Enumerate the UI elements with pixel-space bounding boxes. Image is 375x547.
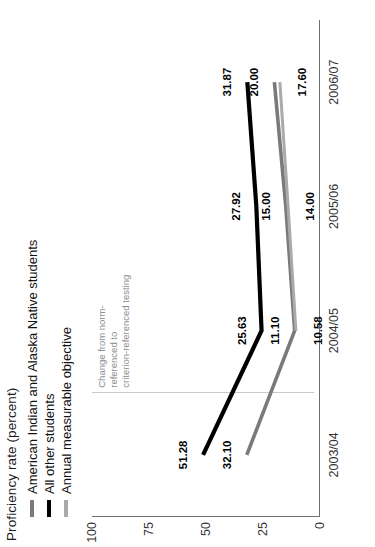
series-line	[247, 82, 295, 455]
legend-line-swatch-icon	[30, 500, 34, 517]
series-line	[280, 82, 296, 331]
data-point-label: 10.58	[312, 316, 324, 345]
x-axis-tick-label: 2003/04	[327, 432, 341, 477]
legend-item-american-indian-alaska-native: American Indian and Alaska Native studen…	[24, 240, 40, 517]
series-lines	[92, 20, 320, 517]
data-point-label: 11.10	[269, 317, 281, 345]
y-axis-tick-label: 0	[313, 522, 327, 529]
y-axis-tick-label: 25	[256, 522, 270, 536]
data-point-label: 32.10	[221, 440, 233, 469]
data-point-label: 31.87	[221, 68, 233, 97]
legend-item-all-other-students: All other students	[41, 240, 57, 517]
x-axis-tick-label: 2004/05	[327, 308, 341, 353]
chart-legend: American Indian and Alaska Native studen…	[24, 240, 75, 517]
series-line	[203, 82, 261, 455]
legend-line-swatch-icon	[64, 500, 68, 517]
plot-area: 0255075100 2003/042004/052005/062006/07 …	[92, 20, 320, 517]
legend-item-label: American Indian and Alaska Native studen…	[25, 240, 40, 494]
y-axis-tick-label: 75	[142, 522, 156, 536]
data-point-label: 14.00	[304, 192, 316, 221]
legend-line-swatch-icon	[47, 500, 51, 517]
chart-figure: Proficiency rate (percent) American Indi…	[0, 0, 375, 547]
rotated-figure-wrapper: Proficiency rate (percent) American Indi…	[0, 0, 375, 547]
y-axis-tick-label: 100	[85, 522, 99, 543]
data-point-label: 25.63	[236, 316, 248, 345]
data-point-label: 51.28	[177, 440, 189, 469]
data-point-label: 15.00	[260, 192, 272, 221]
x-axis-tick-label: 2006/07	[327, 60, 341, 105]
data-point-label: 17.60	[296, 68, 308, 97]
x-axis-tick-label: 2005/06	[327, 184, 341, 229]
legend-item-annual-measurable-objective: Annual measurable objective	[58, 240, 74, 517]
legend-item-label: All other students	[42, 394, 57, 494]
page-title: Proficiency rate (percent)	[4, 388, 19, 541]
data-point-label: 20.00	[248, 68, 260, 97]
y-axis-tick-label: 50	[199, 522, 213, 536]
legend-item-label: Annual measurable objective	[59, 327, 74, 494]
data-point-label: 27.92	[230, 192, 242, 221]
